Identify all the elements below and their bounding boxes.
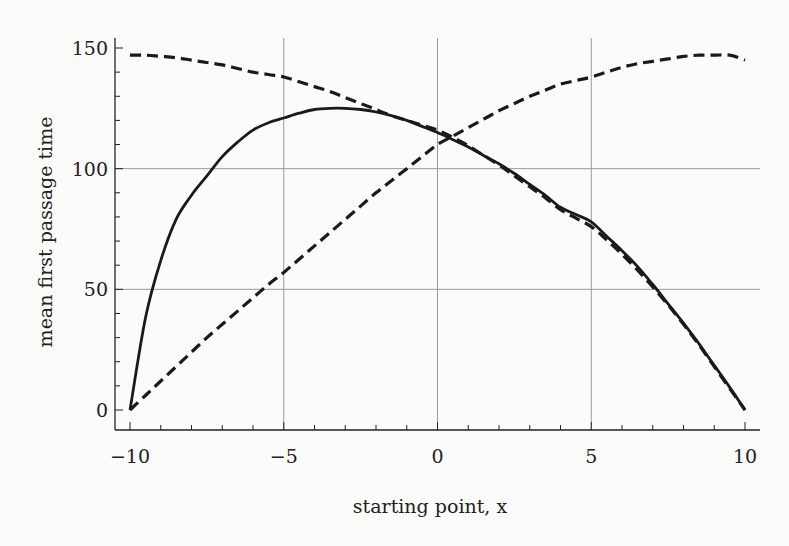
grid-lines [115, 38, 760, 430]
x-tick-label: 0 [431, 445, 443, 467]
y-tick-label: 50 [84, 278, 108, 300]
tick-labels: −10−50510050100150 [72, 37, 757, 467]
x-tick-label: 10 [733, 445, 757, 467]
y-axis-title: mean first passage time [34, 117, 56, 348]
y-tick-label: 100 [72, 158, 108, 180]
y-tick-label: 0 [96, 399, 108, 421]
x-tick-label: −5 [270, 445, 298, 467]
y-tick-label: 150 [72, 37, 108, 59]
x-tick-label: −10 [110, 445, 150, 467]
x-axis-title: starting point, x [353, 495, 508, 517]
chart-figure: −10−50510050100150 starting point, x mea… [0, 0, 789, 546]
x-tick-label: 5 [585, 445, 597, 467]
